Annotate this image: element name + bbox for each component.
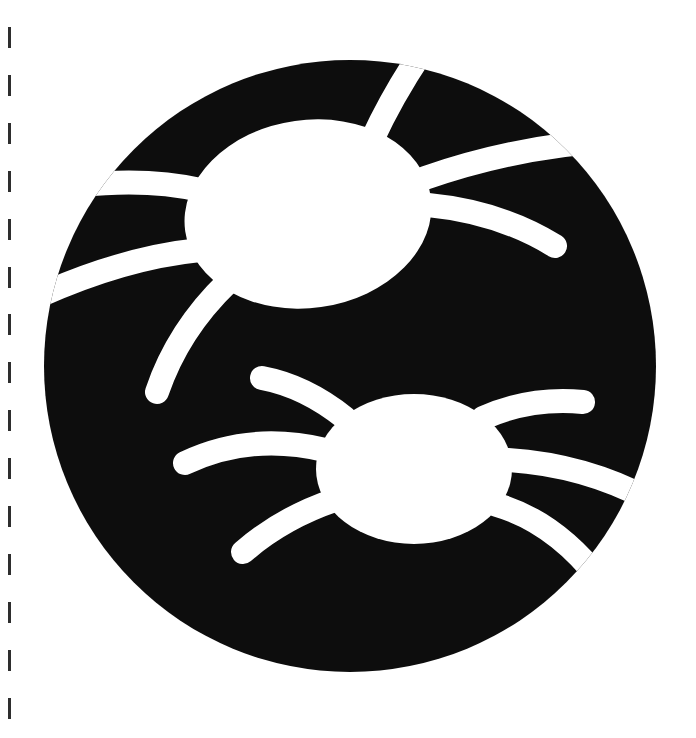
spider-leg: [80, 182, 200, 190]
spider-circle-artwork: [0, 0, 696, 738]
spider-body: [316, 394, 512, 544]
